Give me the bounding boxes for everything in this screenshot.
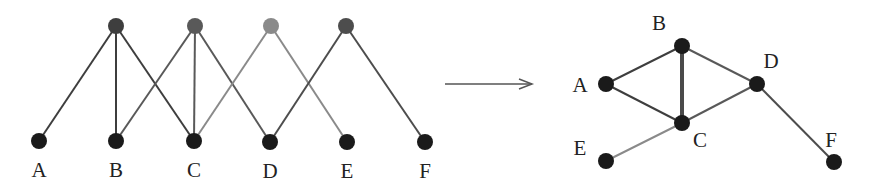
top-node	[187, 18, 203, 34]
bipartite-edge	[346, 26, 425, 142]
bottom-node-label: A	[31, 158, 47, 182]
projected-node-a	[598, 76, 614, 92]
projected-graph-nodes: ABCDEF	[572, 11, 842, 170]
bottom-node-d	[262, 134, 278, 150]
bipartite-projection-diagram: ABCDEF ABCDEF	[0, 0, 875, 196]
projected-node-label: D	[763, 49, 778, 73]
projected-node-b	[674, 38, 690, 54]
bottom-node-c	[186, 133, 202, 149]
projected-edge-c-d	[682, 84, 757, 123]
bipartite-edge	[39, 26, 116, 141]
projected-edge-d-f	[757, 84, 834, 162]
top-node	[338, 18, 354, 34]
projected-node-label: E	[574, 136, 587, 160]
projected-node-f	[826, 154, 842, 170]
projected-graph-edges	[606, 46, 834, 162]
bipartite-bottom-nodes: ABCDEF	[31, 133, 433, 183]
projected-node-label: C	[693, 128, 707, 152]
bottom-node-e	[339, 134, 355, 150]
projected-edge-b-d	[682, 46, 757, 84]
projected-node-e	[598, 153, 614, 169]
bipartite-edges	[39, 26, 425, 142]
bottom-node-f	[417, 134, 433, 150]
projected-node-label: B	[652, 11, 666, 35]
top-node	[263, 18, 279, 34]
projected-node-label: A	[572, 73, 588, 97]
top-node	[108, 18, 124, 34]
bottom-node-label: B	[109, 158, 123, 182]
bottom-node-label: E	[341, 159, 354, 183]
projection-arrow-icon	[445, 79, 532, 89]
projected-edge-c-e	[606, 123, 682, 161]
projected-node-c	[674, 115, 690, 131]
bottom-node-a	[31, 133, 47, 149]
bipartite-top-nodes	[108, 18, 354, 34]
bottom-node-label: F	[419, 159, 431, 183]
projected-node-d	[749, 76, 765, 92]
bottom-node-label: D	[262, 159, 277, 183]
projected-edge-a-c	[606, 84, 682, 123]
projected-node-label: F	[825, 128, 837, 152]
bottom-node-label: C	[187, 158, 201, 182]
projected-edge-a-b	[606, 46, 682, 84]
bipartite-edge	[194, 26, 195, 141]
bottom-node-b	[108, 133, 124, 149]
